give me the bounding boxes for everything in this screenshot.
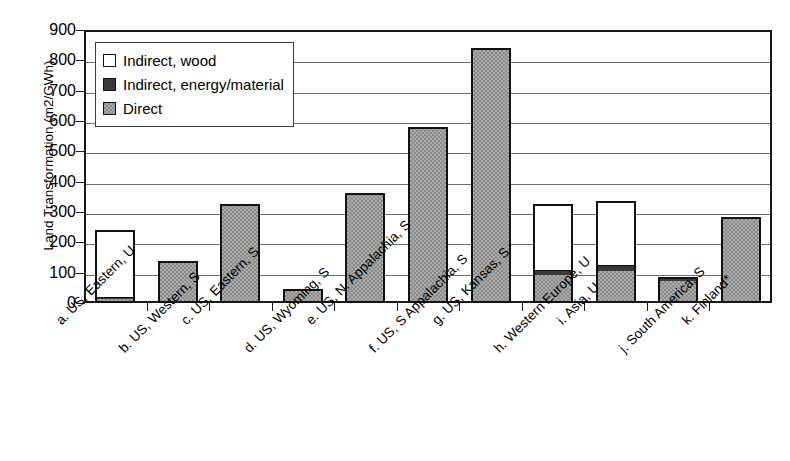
y-tick-mark-400 <box>76 182 85 183</box>
legend-item[interactable]: Indirect, energy/material <box>103 72 284 96</box>
y-tick-label-700: 700 <box>16 83 76 99</box>
y-tick-mark-200 <box>76 242 85 243</box>
x-tick-mark <box>397 303 398 311</box>
y-tick-label-800: 800 <box>16 52 76 68</box>
chart-legend: Indirect, woodIndirect, energy/materialD… <box>95 42 294 127</box>
legend-item-label: Direct <box>123 101 162 116</box>
y-tick-mark-700 <box>76 91 85 92</box>
y-tick-mark-600 <box>76 121 85 122</box>
bar-segment-direct <box>97 299 133 301</box>
y-tick-label-500: 500 <box>16 143 76 159</box>
x-tick-mark <box>647 303 648 311</box>
bar-segment-energy-material <box>410 127 446 128</box>
x-tick-mark <box>272 303 273 311</box>
legend-item-label: Indirect, energy/material <box>123 77 284 92</box>
bar-segment-indirect-wood <box>598 201 634 265</box>
x-axis-labels: a. US, Eastern, Ub. US, Western, Sc. US,… <box>0 311 790 461</box>
bar-stack[interactable] <box>596 201 636 303</box>
bar-segment-energy-material <box>347 193 383 194</box>
y-tick-label-300: 300 <box>16 204 76 220</box>
y-tick-mark-500 <box>76 151 85 152</box>
legend-swatch-energy-icon <box>103 78 116 91</box>
y-tick-label-100: 100 <box>16 265 76 281</box>
legend-item[interactable]: Direct <box>103 96 284 120</box>
y-tick-mark-300 <box>76 212 85 213</box>
y-tick-label-400: 400 <box>16 174 76 190</box>
y-tick-label-600: 600 <box>16 113 76 129</box>
y-tick-mark-100 <box>76 273 85 274</box>
bar-segment-indirect-wood <box>535 204 571 269</box>
y-tick-label-200: 200 <box>16 234 76 250</box>
chart-figure: Land Transformation (m2/GWh) 90080070060… <box>0 0 790 461</box>
x-tick-mark <box>522 303 523 311</box>
y-tick-mark-800 <box>76 60 85 61</box>
bar-segment-direct <box>598 271 634 301</box>
x-tick-mark <box>147 303 148 311</box>
legend-swatch-wood-icon <box>103 54 116 67</box>
y-tick-label-900: 900 <box>16 22 76 38</box>
y-tick-mark-900 <box>76 30 85 31</box>
bar-segment-energy-material <box>222 204 258 205</box>
legend-item-label: Indirect, wood <box>123 53 216 68</box>
legend-item[interactable]: Indirect, wood <box>103 48 284 72</box>
legend-swatch-direct-icon <box>103 102 116 115</box>
